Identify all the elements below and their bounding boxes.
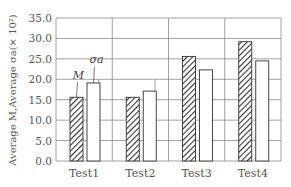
y-tick-label: 15.0 xyxy=(29,94,52,106)
annotation-m: M xyxy=(72,69,85,82)
bar-m-test1 xyxy=(70,97,83,161)
annotation-sigma-a: σa xyxy=(89,53,103,66)
y-tick-label: 35.0 xyxy=(29,12,52,24)
x-axis-categories: Test1Test2Test3Test4 xyxy=(69,167,268,180)
x-category-label: Test2 xyxy=(125,167,155,180)
y-tick-label: 20.0 xyxy=(29,73,52,85)
y-tick-label: 30.0 xyxy=(29,32,52,44)
x-category-label: Test4 xyxy=(238,167,268,180)
y-tick-label: 5.0 xyxy=(35,135,52,147)
bar-sigma-a-test4 xyxy=(256,61,269,161)
bar-m-test2 xyxy=(126,97,139,161)
bar-m-test3 xyxy=(183,56,196,161)
bar-sigma-a-test3 xyxy=(200,70,213,161)
bar-chart: 0.05.010.015.020.025.030.035.0 Test1Test… xyxy=(0,0,291,187)
x-category-label: Test3 xyxy=(182,167,212,180)
y-tick-label: 25.0 xyxy=(29,53,52,65)
y-axis-label: Average M,Average σa(× 10²) xyxy=(7,14,18,167)
x-category-label: Test1 xyxy=(69,167,99,180)
bar-m-test4 xyxy=(239,42,252,161)
y-axis-ticks: 0.05.010.015.020.025.030.035.0 xyxy=(29,12,52,167)
bar-sigma-a-test1 xyxy=(87,83,100,161)
bar-sigma-a-test2 xyxy=(143,91,156,161)
y-tick-label: 0.0 xyxy=(35,155,52,167)
y-tick-label: 10.0 xyxy=(29,114,52,126)
